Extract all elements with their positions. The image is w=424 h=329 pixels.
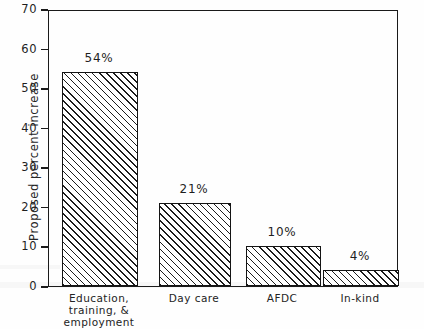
bar — [323, 270, 399, 286]
y-axis-tick-mark — [41, 88, 48, 90]
y-axis-tick-label: 10 — [21, 239, 37, 253]
bar — [62, 72, 138, 286]
y-axis-tick-label: 20 — [21, 200, 37, 214]
bar-value-label: 4% — [320, 249, 400, 263]
y-axis-tick-mark — [41, 128, 48, 130]
x-axis-category-label: Education, training, & employment — [44, 292, 154, 328]
y-axis-tick-label: 60 — [21, 42, 37, 56]
x-axis-category-label: In-kind — [305, 292, 415, 304]
y-axis-tick-label: 50 — [21, 81, 37, 95]
y-axis-tick-mark — [41, 286, 48, 288]
bar — [246, 246, 321, 286]
bar-value-label: 21% — [154, 182, 234, 196]
bar-chart: Proposed percent increase 01020304050607… — [0, 0, 424, 329]
y-axis-tick-label: 40 — [21, 121, 37, 135]
y-axis-tick-mark — [41, 167, 48, 169]
bar-value-label: 10% — [242, 225, 322, 239]
y-axis-tick-label: 30 — [21, 160, 37, 174]
bar-value-label: 54% — [59, 51, 139, 65]
y-axis-tick-label: 0 — [29, 279, 37, 293]
y-axis-tick-mark — [41, 49, 48, 51]
y-axis-tick-label: 70 — [21, 2, 37, 16]
y-axis-tick-mark — [41, 9, 48, 11]
y-axis-tick-mark — [41, 246, 48, 248]
y-axis-tick-mark — [41, 207, 48, 209]
bar — [159, 203, 231, 286]
